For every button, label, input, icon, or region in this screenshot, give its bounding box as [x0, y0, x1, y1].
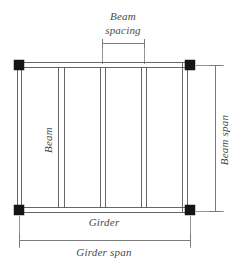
girder-span-label: Girder span — [76, 246, 132, 258]
framing-plan-svg: Beam spacing Beam Girder Beam span Girde… — [0, 0, 239, 262]
beam-4 — [141, 67, 146, 207]
framing-plan-diagram: Beam spacing Beam Girder Beam span Girde… — [0, 0, 239, 262]
beam-5 — [182, 63, 187, 213]
beam-spacing-label-line2: spacing — [105, 24, 141, 36]
beam-spacing-dimension — [103, 39, 145, 65]
girder-label: Girder — [89, 216, 120, 228]
beam-2 — [59, 67, 65, 207]
column-bottom-left — [14, 205, 24, 215]
beam-label: Beam — [42, 127, 54, 153]
beam-3 — [100, 67, 106, 207]
column-top-right — [185, 60, 195, 70]
column-bottom-right — [185, 205, 195, 215]
girder-bottom — [19, 208, 190, 213]
beam-spacing-label-line1: Beam — [110, 10, 136, 22]
girder-top — [19, 63, 190, 68]
beam-1 — [17, 63, 22, 213]
beam-span-label: Beam span — [218, 115, 230, 166]
column-top-left — [14, 60, 24, 70]
